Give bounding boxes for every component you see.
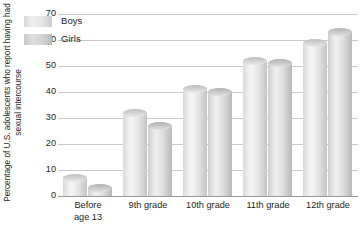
bar-cap xyxy=(88,184,112,192)
legend-item-girls: Girls xyxy=(24,32,82,46)
bar-body xyxy=(303,43,327,196)
bar-boys xyxy=(63,178,87,196)
legend-swatch-boys xyxy=(24,16,52,27)
bar-cap xyxy=(123,109,147,117)
bar-girls xyxy=(208,92,232,196)
y-tick-label: 50 xyxy=(46,61,56,70)
legend-swatch-girls xyxy=(24,34,52,45)
bar-group xyxy=(243,14,292,196)
x-tick-label-line: 12th grade xyxy=(298,200,358,212)
bar-boys xyxy=(183,89,207,196)
x-tick-label-line: Before xyxy=(58,200,118,212)
x-tick-label-line: 10th grade xyxy=(178,200,238,212)
bar-group xyxy=(123,14,172,196)
bar-body xyxy=(208,92,232,196)
bar-group xyxy=(303,14,352,196)
legend: Boys Girls xyxy=(24,14,82,50)
x-axis-tick-labels: Beforeage 139th grade10th grade11th grad… xyxy=(58,200,358,243)
legend-label-boys: Boys xyxy=(61,16,82,26)
bar-boys xyxy=(303,43,327,196)
legend-label-girls: Girls xyxy=(61,34,81,44)
bar-girls xyxy=(148,126,172,196)
bar-cap xyxy=(208,88,232,96)
y-tick-label: 0 xyxy=(51,191,56,200)
y-tick-label: 20 xyxy=(46,139,56,148)
bar-group xyxy=(183,14,232,196)
x-tick-label: 9th grade xyxy=(118,200,178,212)
x-tick-label: 11th grade xyxy=(238,200,298,212)
bar-cap xyxy=(243,57,267,65)
x-tick-label-line: 9th grade xyxy=(118,200,178,212)
bar-body xyxy=(183,89,207,196)
bar-girls xyxy=(328,32,352,196)
x-tick-label-line: age 13 xyxy=(58,212,118,224)
bar-girls xyxy=(88,188,112,196)
bar-boys xyxy=(123,113,147,196)
bar-chart: Percentage of U.S. adolescents who repor… xyxy=(0,0,362,243)
x-tick-label: Beforeage 13 xyxy=(58,200,118,223)
gridline xyxy=(58,196,358,197)
y-tick-label: 10 xyxy=(46,165,56,174)
bar-cap xyxy=(328,28,352,36)
plot-area xyxy=(58,14,358,196)
bar-body xyxy=(123,113,147,196)
legend-item-boys: Boys xyxy=(24,14,82,28)
y-tick-label: 40 xyxy=(46,87,56,96)
bar-body xyxy=(148,126,172,196)
bar-body xyxy=(243,61,267,196)
bar-body xyxy=(268,63,292,196)
bar-cap xyxy=(148,122,172,130)
x-tick-label-line: 11th grade xyxy=(238,200,298,212)
bar-cap xyxy=(63,174,87,182)
bar-groups xyxy=(58,14,358,196)
x-tick-label: 10th grade xyxy=(178,200,238,212)
bar-body xyxy=(328,32,352,196)
y-tick-label: 30 xyxy=(46,113,56,122)
bar-cap xyxy=(303,39,327,47)
x-tick-label: 12th grade xyxy=(298,200,358,212)
y-axis-title: Percentage of U.S. adolescents who repor… xyxy=(2,0,24,205)
bar-boys xyxy=(243,61,267,196)
bar-girls xyxy=(268,63,292,196)
